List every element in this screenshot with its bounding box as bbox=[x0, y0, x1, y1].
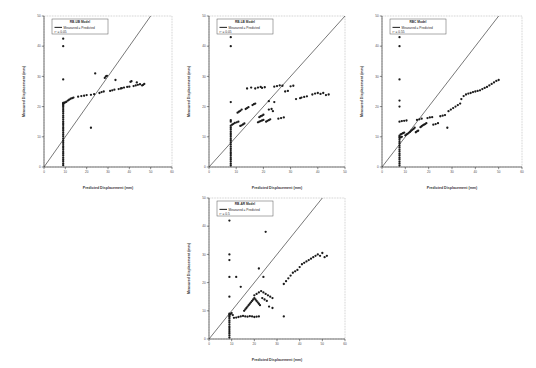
svg-text:10: 10 bbox=[64, 170, 68, 174]
svg-text:30: 30 bbox=[37, 75, 41, 79]
svg-text:60: 60 bbox=[170, 170, 174, 174]
svg-text:40: 40 bbox=[298, 342, 302, 346]
svg-text:10: 10 bbox=[404, 170, 408, 174]
svg-text:30: 30 bbox=[202, 253, 206, 257]
panel-c-svg: 010203040506001020304050Predicted Displa… bbox=[356, 8, 528, 193]
svg-text:Measured Displacement (mm): Measured Displacement (mm) bbox=[22, 65, 26, 117]
svg-text:50: 50 bbox=[37, 14, 41, 18]
svg-text:Predicted Displacement (mm): Predicted Displacement (mm) bbox=[83, 186, 134, 190]
svg-text:r² = 0.05: r² = 0.05 bbox=[220, 30, 232, 34]
panel-b-svg: 0102030405001020304050Predicted Displace… bbox=[183, 8, 351, 193]
svg-text:Predicted Displacement (mm): Predicted Displacement (mm) bbox=[252, 186, 303, 190]
svg-text:RBC Model: RBC Model bbox=[410, 20, 427, 24]
svg-text:0: 0 bbox=[381, 170, 383, 174]
svg-text:Measured Displacement (mm): Measured Displacement (mm) bbox=[187, 65, 191, 117]
svg-text:40: 40 bbox=[128, 170, 132, 174]
svg-text:20: 20 bbox=[37, 105, 41, 109]
svg-text:RB-UB Model: RB-UB Model bbox=[70, 20, 90, 24]
svg-text:0: 0 bbox=[43, 170, 45, 174]
svg-text:10: 10 bbox=[375, 135, 379, 139]
svg-text:20: 20 bbox=[427, 170, 431, 174]
svg-text:30: 30 bbox=[375, 75, 379, 79]
svg-text:50: 50 bbox=[202, 196, 206, 200]
svg-text:40: 40 bbox=[316, 170, 320, 174]
svg-text:RB-AR Model: RB-AR Model bbox=[235, 202, 255, 206]
svg-text:20: 20 bbox=[85, 170, 89, 174]
svg-text:50: 50 bbox=[497, 170, 501, 174]
svg-text:60: 60 bbox=[520, 170, 524, 174]
svg-text:Measured = Predicted: Measured = Predicted bbox=[229, 208, 260, 212]
svg-text:0: 0 bbox=[204, 337, 206, 341]
svg-text:40: 40 bbox=[375, 44, 379, 48]
svg-text:0: 0 bbox=[204, 165, 206, 169]
svg-text:40: 40 bbox=[202, 224, 206, 228]
svg-text:20: 20 bbox=[202, 105, 206, 109]
svg-text:30: 30 bbox=[275, 342, 279, 346]
svg-text:50: 50 bbox=[202, 14, 206, 18]
svg-text:Measured = Predicted: Measured = Predicted bbox=[229, 26, 260, 30]
svg-text:Measured = Predicted: Measured = Predicted bbox=[64, 26, 95, 30]
panel-b: 0102030405001020304050Predicted Displace… bbox=[183, 8, 351, 193]
svg-text:60: 60 bbox=[343, 342, 347, 346]
svg-text:50: 50 bbox=[343, 170, 347, 174]
svg-text:Measured = Predicted: Measured = Predicted bbox=[402, 26, 433, 30]
svg-text:10: 10 bbox=[234, 170, 238, 174]
svg-text:20: 20 bbox=[375, 105, 379, 109]
svg-text:30: 30 bbox=[202, 75, 206, 79]
svg-text:0: 0 bbox=[377, 165, 379, 169]
svg-text:Measured Displacement (mm): Measured Displacement (mm) bbox=[360, 65, 364, 117]
svg-text:0: 0 bbox=[39, 165, 41, 169]
svg-text:30: 30 bbox=[289, 170, 293, 174]
svg-text:r² = 0.5: r² = 0.5 bbox=[220, 212, 230, 216]
figure-scatter-grid: 010203040506001020304050Predicted Displa… bbox=[0, 0, 536, 368]
svg-text:30: 30 bbox=[106, 170, 110, 174]
panel-a-svg: 010203040506001020304050Predicted Displa… bbox=[18, 8, 178, 193]
svg-text:10: 10 bbox=[230, 342, 234, 346]
panel-d-svg: 010203040506001020304050Predicted Displa… bbox=[183, 190, 351, 365]
svg-text:20: 20 bbox=[262, 170, 266, 174]
svg-text:50: 50 bbox=[149, 170, 153, 174]
svg-text:Measured Displacement (mm): Measured Displacement (mm) bbox=[187, 242, 191, 294]
svg-text:50: 50 bbox=[375, 14, 379, 18]
svg-text:0: 0 bbox=[208, 170, 210, 174]
svg-text:RB-LB Model: RB-LB Model bbox=[235, 20, 255, 24]
svg-text:10: 10 bbox=[202, 135, 206, 139]
svg-text:0: 0 bbox=[208, 342, 210, 346]
svg-text:40: 40 bbox=[202, 44, 206, 48]
svg-text:30: 30 bbox=[450, 170, 454, 174]
panel-a: 010203040506001020304050Predicted Displa… bbox=[18, 8, 178, 193]
panel-d: 010203040506001020304050Predicted Displa… bbox=[183, 190, 351, 365]
svg-text:r² = 0.05: r² = 0.05 bbox=[55, 30, 67, 34]
svg-text:Predicted Displacement (mm): Predicted Displacement (mm) bbox=[427, 186, 478, 190]
svg-text:10: 10 bbox=[202, 309, 206, 313]
svg-text:Predicted Displacement (mm): Predicted Displacement (mm) bbox=[252, 358, 303, 362]
svg-text:40: 40 bbox=[474, 170, 478, 174]
svg-text:50: 50 bbox=[321, 342, 325, 346]
panel-c: 010203040506001020304050Predicted Displa… bbox=[356, 8, 528, 193]
svg-text:10: 10 bbox=[37, 135, 41, 139]
svg-text:r² = 0.55: r² = 0.55 bbox=[393, 30, 405, 34]
svg-text:40: 40 bbox=[37, 44, 41, 48]
svg-text:20: 20 bbox=[202, 281, 206, 285]
svg-text:20: 20 bbox=[253, 342, 257, 346]
